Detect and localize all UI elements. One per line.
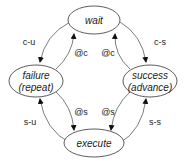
label-at-s-left: @s [74, 107, 88, 117]
node-wait: wait [68, 6, 120, 34]
node-failure-sublabel: (repeat) [18, 82, 53, 93]
node-success-label: success [132, 70, 168, 81]
node-success: success (advance) [123, 65, 177, 97]
label-c-s: c-s [154, 37, 166, 47]
state-diagram: wait failure (repeat) success (advance) … [0, 0, 184, 164]
edge-failure-to-execute [56, 92, 74, 130]
label-at-c-right: @c [101, 48, 115, 58]
edge-execute-to-success [120, 99, 146, 143]
label-s-s: s-s [149, 117, 161, 127]
edge-wait-to-failure [40, 22, 70, 62]
edge-success-to-wait [115, 34, 130, 69]
edge-wait-to-success [120, 22, 146, 62]
label-at-s-right: @s [101, 107, 115, 117]
label-c-u: c-u [23, 37, 36, 47]
node-success-sublabel: (advance) [128, 82, 172, 93]
label-at-c-left: @c [74, 48, 88, 58]
node-failure-label: failure [22, 70, 50, 81]
node-execute: execute [64, 129, 124, 157]
node-execute-label: execute [76, 138, 111, 149]
edge-failure-to-wait [56, 34, 74, 69]
node-wait-label: wait [85, 15, 104, 26]
node-failure: failure (repeat) [9, 65, 63, 97]
label-s-u: s-u [24, 117, 37, 127]
edge-execute-to-failure [40, 99, 70, 143]
